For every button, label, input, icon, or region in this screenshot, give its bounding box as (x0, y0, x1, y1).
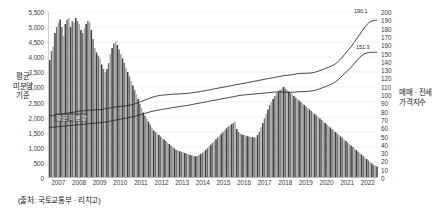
bar (87, 21, 89, 177)
right-tick-170: 170 (381, 33, 391, 40)
bar (274, 96, 276, 177)
bar (115, 42, 117, 177)
bar (317, 117, 319, 177)
left-tick-500: 500 (34, 159, 44, 166)
bar (349, 144, 351, 177)
source-note: (출처: 국토교통부 · 리치고) (18, 194, 101, 205)
bar (227, 127, 229, 177)
right-tick-50: 50 (381, 133, 388, 140)
bar (188, 154, 190, 177)
bar (229, 125, 231, 177)
right-tick-40: 40 (381, 141, 388, 148)
bar (267, 109, 269, 177)
bar (189, 155, 191, 177)
bar (286, 90, 288, 177)
bar (181, 152, 183, 177)
bar (174, 149, 176, 177)
bar (110, 54, 112, 177)
right-tick-200: 200 (381, 9, 391, 16)
bar (184, 153, 186, 177)
x-tick-2008: 2008 (72, 179, 86, 186)
right-tick-90: 90 (381, 100, 388, 107)
bar (238, 132, 240, 177)
bar (369, 162, 371, 177)
right-tick-10: 10 (381, 166, 388, 173)
x-tick-2015: 2015 (216, 179, 230, 186)
bar (252, 137, 254, 177)
bar (376, 167, 378, 177)
bar (82, 33, 84, 177)
bar (298, 101, 300, 177)
bar (295, 98, 297, 177)
bar (312, 113, 314, 177)
bar (136, 95, 138, 178)
bar (212, 143, 214, 177)
bar (269, 105, 271, 177)
bar (272, 99, 274, 177)
bar (253, 137, 255, 177)
plot-area (48, 12, 378, 178)
bar (375, 166, 377, 177)
bar (357, 152, 359, 177)
bar (52, 47, 54, 177)
bar (293, 96, 295, 177)
bar (323, 121, 325, 177)
bar (91, 30, 93, 177)
x-tick-2013: 2013 (175, 179, 189, 186)
bar (259, 132, 261, 177)
bar (305, 106, 307, 177)
x-tick-2012: 2012 (155, 179, 169, 186)
right-tick-70: 70 (381, 116, 388, 123)
bar (355, 150, 357, 177)
bar (371, 164, 373, 177)
bar (194, 156, 196, 177)
bar (245, 136, 247, 177)
bar (243, 135, 245, 177)
bar (120, 54, 122, 177)
right-tick-130: 130 (381, 67, 391, 74)
bar (335, 132, 337, 177)
bar (165, 141, 167, 177)
bar (175, 150, 177, 177)
bar (354, 149, 356, 177)
right-tick-20: 20 (381, 158, 388, 165)
left-tick-5000: 5,000 (29, 24, 45, 31)
bar (118, 50, 120, 177)
bar (162, 138, 164, 177)
bar (72, 21, 74, 177)
bar (316, 116, 318, 177)
left-tick-2500: 2,500 (29, 99, 45, 106)
bar (352, 147, 354, 177)
bar (151, 128, 153, 178)
bar (58, 22, 60, 177)
bar (347, 142, 349, 177)
bar (250, 137, 252, 177)
bar (80, 30, 82, 177)
bar (146, 119, 148, 177)
bar (207, 148, 209, 177)
left-tick-4000: 4,000 (29, 54, 45, 61)
x-tick-2014: 2014 (196, 179, 210, 186)
bar (158, 135, 160, 177)
bar (265, 114, 267, 177)
bar (300, 102, 302, 177)
bar (179, 151, 181, 177)
bar (361, 154, 363, 177)
bar (49, 60, 51, 177)
bar (364, 157, 366, 177)
right-tick-120: 120 (381, 75, 391, 82)
bar (205, 150, 207, 177)
bar (246, 136, 248, 177)
bar (89, 22, 91, 177)
x-tick-2019: 2019 (299, 179, 313, 186)
bar (104, 72, 106, 177)
bar (310, 111, 312, 177)
bar (248, 136, 250, 177)
bar (96, 53, 98, 177)
bar (368, 161, 370, 178)
bar (302, 103, 304, 177)
bar (276, 93, 278, 177)
x-tick-2017: 2017 (258, 179, 272, 186)
bar (113, 43, 115, 177)
right-axis-title: 매매 · 전세 가격지수 (399, 88, 435, 107)
